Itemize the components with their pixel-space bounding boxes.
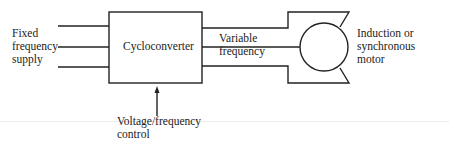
motor-label: Induction or synchronous motor <box>357 27 415 66</box>
block-label: Cycloconverter <box>123 40 194 53</box>
motor-label-line-2: synchronous <box>357 40 415 53</box>
control-label: Voltage/frequency control <box>117 115 201 141</box>
control-label-line-2: control <box>117 128 201 141</box>
output-line-top <box>202 12 349 28</box>
input-label-line-2: frequency <box>12 40 58 53</box>
motor-label-line-3: motor <box>357 53 415 66</box>
input-label: Fixed frequency supply <box>12 27 58 66</box>
motor-circle <box>300 23 348 71</box>
motor-label-line-1: Induction or <box>357 27 415 40</box>
output-label-line-1: Variable <box>219 32 265 45</box>
diagram-canvas <box>0 0 449 142</box>
output-label-line-2: frequency <box>219 45 265 58</box>
input-label-line-1: Fixed <box>12 27 58 40</box>
control-label-line-1: Voltage/frequency <box>117 115 201 128</box>
output-line-bottom <box>202 66 349 83</box>
control-arrow-head-icon <box>155 86 160 93</box>
output-label: Variable frequency <box>219 32 265 58</box>
input-label-line-3: supply <box>12 53 58 66</box>
